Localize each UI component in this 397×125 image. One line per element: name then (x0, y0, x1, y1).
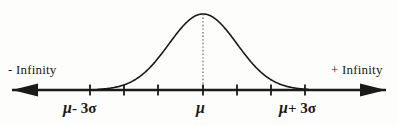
minus-3sigma-text: - 3σ (72, 100, 96, 116)
left-arrowhead-icon (12, 84, 38, 97)
mu-glyph: μ (63, 99, 72, 116)
mu-glyph: μ (196, 99, 205, 116)
bell-curve-diagram: - Infinity + Infinity μ- 3σ μ μ+ 3σ (0, 0, 397, 125)
mu-plus-3sigma-label: μ+ 3σ (279, 100, 316, 116)
mu-minus-3sigma-label: μ- 3σ (63, 100, 96, 116)
mu-center-label: μ (196, 100, 205, 116)
positive-infinity-label: + Infinity (331, 63, 383, 76)
mu-glyph: μ (279, 99, 288, 116)
right-arrowhead-icon (360, 84, 386, 97)
plus-3sigma-text: + 3σ (288, 100, 316, 116)
negative-infinity-label: - Infinity (8, 63, 57, 76)
